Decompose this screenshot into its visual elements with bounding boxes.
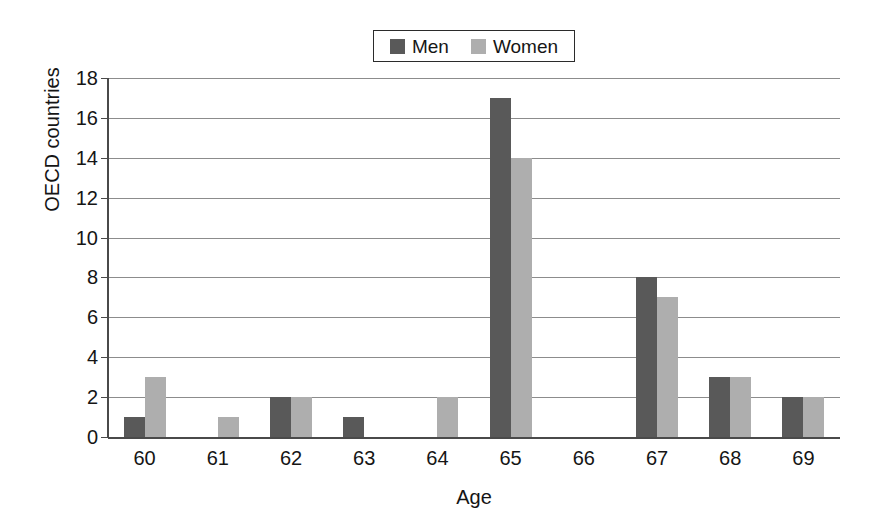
gridline-10 [108, 238, 840, 239]
y-tick-4 [101, 357, 108, 358]
y-tick-label-12: 12 [76, 188, 98, 208]
y-tick-8 [101, 277, 108, 278]
y-tick-16 [101, 118, 108, 119]
x-tick-label-61: 61 [207, 448, 229, 468]
y-tick-label-2: 2 [87, 387, 98, 407]
y-axis-line [107, 78, 109, 437]
y-tick-6 [101, 317, 108, 318]
bar-men-63 [343, 417, 364, 437]
y-tick-label-18: 18 [76, 68, 98, 88]
x-tick-label-60: 60 [133, 448, 155, 468]
plot-background [108, 78, 840, 437]
y-tick-label-8: 8 [87, 267, 98, 287]
y-tick-18 [101, 78, 108, 79]
legend-swatch-men-icon [390, 39, 405, 54]
gridline-12 [108, 198, 840, 199]
legend-entry-men: Men [390, 37, 449, 56]
bar-women-67 [657, 297, 678, 437]
bar-women-65 [511, 158, 532, 437]
y-tick-0 [101, 437, 108, 438]
y-tick-label-10: 10 [76, 228, 98, 248]
y-tick-label-4: 4 [87, 347, 98, 367]
x-tick-label-66: 66 [573, 448, 595, 468]
chart-plot-area [108, 78, 840, 437]
bar-series-layer [108, 78, 840, 437]
y-tick-2 [101, 397, 108, 398]
x-tick-label-63: 63 [353, 448, 375, 468]
bar-women-64 [437, 397, 458, 437]
gridline-6 [108, 317, 840, 318]
gridline-18 [108, 78, 840, 79]
y-axis-tick-labels: 024681012141618 [60, 78, 98, 437]
bar-women-62 [291, 397, 312, 437]
y-tick-label-0: 0 [87, 427, 98, 447]
x-tick-label-65: 65 [499, 448, 521, 468]
legend-label-women: Women [493, 37, 558, 56]
legend-swatch-women-icon [471, 39, 486, 54]
x-tick-label-68: 68 [719, 448, 741, 468]
y-tick-12 [101, 198, 108, 199]
bar-women-60 [145, 377, 166, 437]
x-tick-label-64: 64 [426, 448, 448, 468]
x-tick-label-69: 69 [792, 448, 814, 468]
bar-men-62 [270, 397, 291, 437]
x-tick-label-62: 62 [280, 448, 302, 468]
y-tick-label-16: 16 [76, 108, 98, 128]
legend-label-men: Men [412, 37, 449, 56]
y-tick-label-6: 6 [87, 307, 98, 327]
y-tick-14 [101, 158, 108, 159]
bar-men-68 [709, 377, 730, 437]
x-axis-tick-labels: 60616263646566676869 [108, 448, 840, 476]
y-tick-label-14: 14 [76, 148, 98, 168]
legend-entry-women: Women [471, 37, 558, 56]
bar-men-69 [782, 397, 803, 437]
gridline-2 [108, 397, 840, 398]
gridline-0 [108, 437, 840, 439]
gridline-14 [108, 158, 840, 159]
gridline-8 [108, 277, 840, 278]
y-tick-10 [101, 238, 108, 239]
x-axis-title: Age [108, 486, 840, 509]
x-tick-label-67: 67 [646, 448, 668, 468]
bar-women-69 [803, 397, 824, 437]
chart-legend: Men Women [373, 30, 575, 62]
bar-women-68 [730, 377, 751, 437]
bar-men-65 [490, 98, 511, 437]
bar-men-60 [124, 417, 145, 437]
bar-women-61 [218, 417, 239, 437]
gridline-16 [108, 118, 840, 119]
gridline-4 [108, 357, 840, 358]
